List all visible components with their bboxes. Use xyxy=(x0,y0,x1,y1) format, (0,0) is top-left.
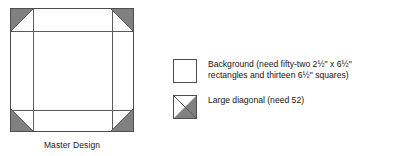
corner-diagonal-bottom-right xyxy=(111,109,133,131)
large-diagonal-swatch-icon xyxy=(173,95,197,119)
grid-line-horizontal-top xyxy=(11,31,133,32)
legend-item-large-diagonal: Large diagonal (need 52) xyxy=(173,94,391,119)
quilt-pattern-diagram: Master Design Background (need fifty-two… xyxy=(0,0,396,156)
corner-diagonal-top-left xyxy=(11,9,33,31)
corner-diagonal-bottom-left xyxy=(11,109,33,131)
legend-item-background: Background (need fifty-two 2½" x 6½" rec… xyxy=(173,58,391,83)
master-design-block xyxy=(10,8,134,132)
legend-label-large-diagonal: Large diagonal (need 52) xyxy=(208,94,304,106)
background-swatch-icon xyxy=(173,59,197,83)
corner-diagonal-top-right xyxy=(111,9,133,31)
master-design-figure: Master Design xyxy=(10,8,134,150)
legend: Background (need fifty-two 2½" x 6½" rec… xyxy=(173,58,391,119)
master-design-caption: Master Design xyxy=(10,140,134,150)
grid-line-vertical-left xyxy=(33,9,34,131)
legend-label-background: Background (need fifty-two 2½" x 6½" rec… xyxy=(208,58,391,82)
